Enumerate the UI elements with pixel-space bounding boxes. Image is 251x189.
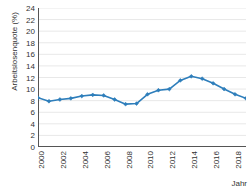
x-tick-label: 2002 — [58, 151, 67, 169]
y-tick-label: 6 — [31, 108, 35, 117]
y-tick-label: 4 — [31, 119, 35, 128]
y-tick-label: 18 — [26, 38, 35, 47]
x-tick-label: 2014 — [190, 151, 199, 169]
x-tick-label: 2016 — [212, 151, 221, 169]
plot-area: 024681012141618202224 200020022004200620… — [38, 8, 246, 147]
x-tick-label: 2008 — [124, 151, 133, 169]
x-tick-label: 2012 — [168, 151, 177, 169]
x-tick-label: 2018 — [234, 151, 243, 169]
y-tick-label: 24 — [26, 4, 35, 13]
y-tick-label: 0 — [31, 143, 35, 152]
y-tick-label: 22 — [26, 15, 35, 24]
x-tick-label: 2010 — [146, 151, 155, 169]
y-tick-label: 10 — [26, 85, 35, 94]
y-tick-label: 8 — [31, 96, 35, 105]
y-tick-label: 14 — [26, 61, 35, 70]
y-tick-label: 2 — [31, 131, 35, 140]
y-tick-label: 12 — [26, 73, 35, 82]
chart-canvas — [38, 8, 246, 147]
x-tick-label: 2004 — [80, 151, 89, 169]
x-tick-label: 2006 — [102, 151, 111, 169]
unemployment-rate-line-chart: Arbeitslosenquote (%) Jahr 0246810121416… — [0, 0, 251, 189]
y-tick-label: 16 — [26, 50, 35, 59]
y-tick-label: 20 — [26, 27, 35, 36]
x-axis-label: Jahr — [231, 179, 247, 188]
x-tick-label: 2000 — [37, 151, 46, 169]
y-axis-label: Arbeitslosenquote (%) — [10, 0, 19, 113]
